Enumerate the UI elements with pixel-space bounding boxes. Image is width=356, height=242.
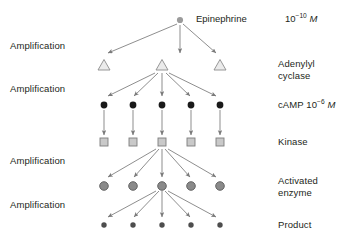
nodes-kinase [100,138,224,146]
amplification-label-2: Amplification [10,83,65,94]
arrows-camp-to-kinase [104,110,220,135]
concentration-label-epinephrine: 10−10 M [285,13,317,24]
amplification-label-3: Amplification [10,155,65,166]
row-label-adenylyl-cyclase: Adenylyl cyclase [278,58,315,81]
row-label-camp: cAMP 10−6 M [278,99,336,111]
row-label-activated-enzyme: Activated enzyme [278,175,318,198]
arrows-epinephrine-to-cyclase [108,24,216,53]
node-epinephrine [177,17,183,23]
arrows-kinase-to-enzyme [108,149,216,177]
nodes-activated-enzyme [100,182,225,191]
nodes-product [101,222,222,227]
amplification-cascade-diagram: Epinephrine 10−10 M Amplification Adenyl… [0,0,356,242]
amplification-label-1: Amplification [10,40,65,51]
amplification-label-4: Amplification [10,199,65,210]
nodes-camp [101,102,224,109]
row-label-kinase: Kinase [278,136,308,148]
nodes-adenylyl-cyclase [98,60,226,71]
arrows-enzyme-to-product [108,191,216,217]
row-label-product: Product [278,219,311,231]
node-label-epinephrine: Epinephrine [196,13,247,24]
arrows-cyclase-to-camp [108,73,216,96]
